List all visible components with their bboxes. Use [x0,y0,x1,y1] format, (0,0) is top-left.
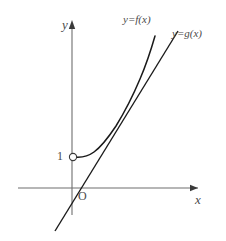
y-axis [69,20,75,215]
x-axis-label: x [195,193,201,206]
curve-f [75,36,155,157]
graph-figure: y x O 1 y=f(x) y=g(x) [0,0,226,241]
y-axis-label: y [62,18,68,31]
y-tick-label-1: 1 [57,150,63,162]
origin-label: O [78,190,87,202]
x-axis-arrowhead [190,185,198,191]
y-axis-arrowhead [69,20,75,29]
x-axis [18,185,198,191]
curve-label-f: y=f(x) [123,14,151,25]
open-circle-marker [69,153,76,160]
curve-g [55,31,178,231]
curve-label-g: y=g(x) [172,28,202,39]
